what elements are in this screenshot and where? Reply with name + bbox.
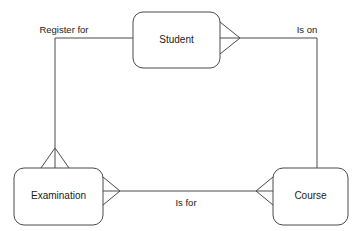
entity-examination[interactable]: Examination [14,168,103,225]
entity-student[interactable]: Student [133,12,220,68]
crowsfoot-examination-top [41,148,69,168]
relationship-label-register-for: Register for [39,24,88,35]
er-diagram-svg: Student Examination Course Register for … [0,0,363,231]
connector-register-for [55,38,133,148]
entity-examination-label: Examination [31,190,86,201]
entity-student-label: Student [159,34,194,45]
connector-is-on [240,38,317,168]
er-diagram-canvas: Student Examination Course Register for … [0,0,363,231]
crowsfoot-examination-right [103,177,120,205]
crowsfoot-course-left [256,177,273,205]
entity-course[interactable]: Course [273,168,348,225]
crowsfoot-student-right [220,22,240,54]
relationship-label-is-for: Is for [175,197,196,208]
entity-course-label: Course [294,190,327,201]
relationship-label-is-on: Is on [297,24,318,35]
